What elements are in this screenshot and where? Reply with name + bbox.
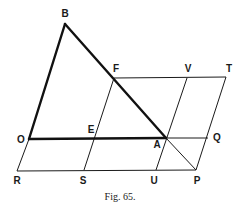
segment-BA [65,24,166,138]
point-label-f: F [113,63,119,74]
point-label-q: Q [213,132,221,143]
segment-OA [29,138,166,139]
point-label-v: V [185,63,192,74]
point-label-r: R [13,175,21,186]
point-label-e: E [88,124,95,135]
point-label-u: U [150,175,157,186]
thick-lines [29,24,166,139]
geometry-diagram: BFVTOEAQRSUP Fig. 65. [0,0,241,209]
figure-caption: Fig. 65. [105,191,136,202]
segment-RP [17,170,196,171]
segment-UV [156,78,187,170]
point-label-o: O [17,134,25,145]
segment-OB [29,24,65,139]
thin-lines [17,77,226,171]
point-label-p: P [194,175,201,186]
point-label-a: A [153,139,160,150]
point-label-b: B [61,8,68,19]
segment-FT [114,77,226,78]
point-label-s: S [80,175,87,186]
segment-AP [166,138,196,170]
segment-PT [196,77,226,170]
point-label-t: T [226,63,232,74]
